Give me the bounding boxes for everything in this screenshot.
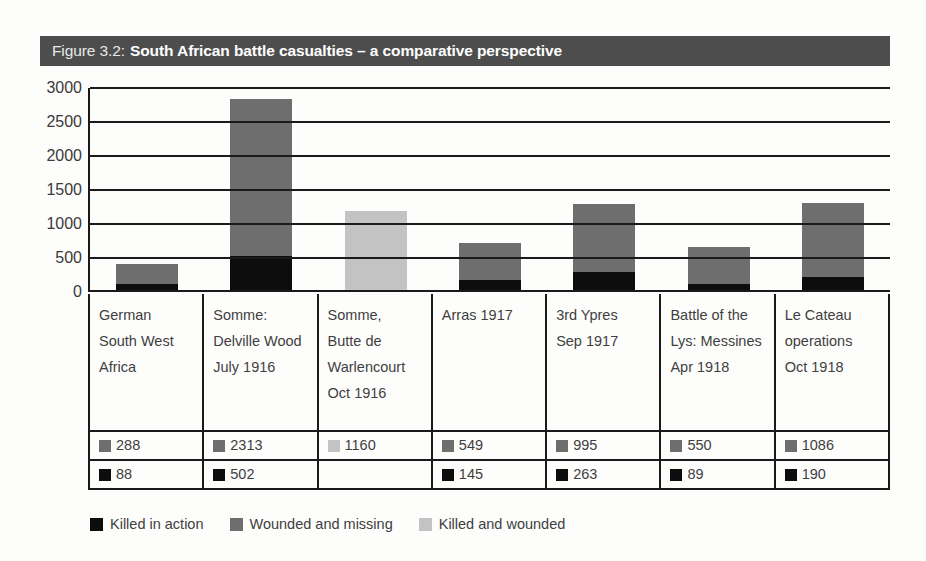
legend-item[interactable]: Killed in action xyxy=(90,516,204,532)
category-label-line: South West xyxy=(99,328,202,354)
legend-swatch-icon xyxy=(670,440,682,452)
bar-stack[interactable] xyxy=(802,203,864,290)
table-cell-category: Le CateauoperationsOct 1918 xyxy=(776,294,888,430)
legend-swatch-icon xyxy=(442,469,454,481)
table-cell-value: 288 xyxy=(116,438,140,453)
gridline xyxy=(90,155,890,157)
legend-label: Wounded and missing xyxy=(250,516,393,532)
table-row-upper-values: 288231311605499955501086 xyxy=(90,430,888,459)
category-label-line: Oct 1918 xyxy=(785,354,888,380)
bar-segment xyxy=(688,284,750,290)
bar-segment xyxy=(573,204,635,272)
category-label-line: Somme: xyxy=(213,302,316,328)
gridline xyxy=(90,223,890,225)
bar-stack[interactable] xyxy=(688,247,750,290)
category-label-line: Sep 1917 xyxy=(556,328,659,354)
legend-swatch-icon xyxy=(442,440,454,452)
legend-swatch-icon xyxy=(785,440,797,452)
category-label-line: Delville Wood xyxy=(213,328,316,354)
category-label-line: July 1916 xyxy=(213,354,316,380)
table-cell-lower: 263 xyxy=(547,461,661,488)
gridline xyxy=(90,189,890,191)
table-cell-value: 89 xyxy=(687,467,703,482)
y-tick-label: 1000 xyxy=(46,215,82,233)
legend-swatch-icon xyxy=(99,469,111,481)
gridline xyxy=(90,87,890,89)
bar-segment xyxy=(116,264,178,284)
category-label-line: Lys: Messines xyxy=(670,328,773,354)
legend-swatch-icon xyxy=(419,518,432,531)
legend-swatch-icon xyxy=(90,518,103,531)
y-tick-label: 3000 xyxy=(46,79,82,97)
plot-area xyxy=(88,88,890,292)
y-axis: 050010001500200025003000 xyxy=(26,78,86,302)
category-label-line: Oct 1916 xyxy=(328,380,431,406)
y-tick-label: 2500 xyxy=(46,113,82,131)
table-cell-category: Somme:Delville WoodJuly 1916 xyxy=(204,294,318,430)
table-cell-upper: 549 xyxy=(433,432,547,459)
table-cell-value: 549 xyxy=(459,438,483,453)
table-cell-lower: 89 xyxy=(661,461,775,488)
gridline xyxy=(90,121,890,123)
table-cell-lower xyxy=(319,461,433,488)
legend-swatch-icon xyxy=(230,518,243,531)
legend-item[interactable]: Wounded and missing xyxy=(230,516,393,532)
figure-container: Figure 3.2: South African battle casualt… xyxy=(0,0,926,561)
table-cell-upper: 2313 xyxy=(204,432,318,459)
table-cell-upper: 550 xyxy=(661,432,775,459)
table-cell-value: 2313 xyxy=(230,438,262,453)
table-cell-category: GermanSouth WestAfrica xyxy=(90,294,204,430)
table-row-categories: GermanSouth WestAfricaSomme:Delville Woo… xyxy=(90,294,888,430)
figure-title-prefix: Figure 3.2: xyxy=(52,42,125,60)
y-tick-label: 1500 xyxy=(46,181,82,199)
table-cell-value: 263 xyxy=(573,467,597,482)
legend-swatch-icon xyxy=(785,469,797,481)
table-cell-upper: 288 xyxy=(90,432,204,459)
bar-segment xyxy=(802,277,864,290)
bar-stack[interactable] xyxy=(459,243,521,290)
legend-swatch-icon xyxy=(213,469,225,481)
bar-segment xyxy=(459,280,521,290)
bar-stack[interactable] xyxy=(573,204,635,290)
bar-segment xyxy=(116,284,178,290)
table-row-lower-values: 8850214526389190 xyxy=(90,459,888,488)
table-cell-value: 550 xyxy=(687,438,711,453)
category-label-line: operations xyxy=(785,328,888,354)
category-label-line: 3rd Ypres xyxy=(556,302,659,328)
data-table: GermanSouth WestAfricaSomme:Delville Woo… xyxy=(88,294,890,490)
legend-swatch-icon xyxy=(556,440,568,452)
legend-swatch-icon xyxy=(328,440,340,452)
table-cell-category: 3rd YpresSep 1917 xyxy=(547,294,661,430)
bar-segment xyxy=(459,243,521,280)
table-cell-value: 1086 xyxy=(802,438,834,453)
legend-swatch-icon xyxy=(670,469,682,481)
legend-label: Killed and wounded xyxy=(439,516,566,532)
bar-stack[interactable] xyxy=(116,264,178,290)
category-label-line: Somme, xyxy=(328,302,431,328)
bar-segment xyxy=(573,272,635,290)
bar-stack[interactable] xyxy=(230,99,292,290)
legend: Killed in actionWounded and missingKille… xyxy=(90,516,591,532)
y-tick-label: 500 xyxy=(55,249,82,267)
table-cell-lower: 190 xyxy=(776,461,888,488)
legend-label: Killed in action xyxy=(110,516,204,532)
category-label-line: Apr 1918 xyxy=(670,354,773,380)
category-label-line: Africa xyxy=(99,354,202,380)
table-cell-value: 145 xyxy=(459,467,483,482)
bar-segment xyxy=(230,256,292,290)
table-cell-category: Battle of theLys: MessinesApr 1918 xyxy=(661,294,775,430)
table-cell-lower: 88 xyxy=(90,461,204,488)
table-cell-lower: 502 xyxy=(204,461,318,488)
table-cell-category: Somme,Butte deWarlencourtOct 1916 xyxy=(319,294,433,430)
table-cell-lower: 145 xyxy=(433,461,547,488)
legend-item[interactable]: Killed and wounded xyxy=(419,516,566,532)
legend-swatch-icon xyxy=(556,469,568,481)
category-label-line: Arras 1917 xyxy=(442,302,545,328)
table-cell-upper: 1086 xyxy=(776,432,888,459)
y-tick-label: 0 xyxy=(73,283,82,301)
legend-swatch-icon xyxy=(213,440,225,452)
category-label-line: Le Cateau xyxy=(785,302,888,328)
category-label-line: Butte de xyxy=(328,328,431,354)
table-cell-value: 502 xyxy=(230,467,254,482)
y-tick-label: 2000 xyxy=(46,147,82,165)
